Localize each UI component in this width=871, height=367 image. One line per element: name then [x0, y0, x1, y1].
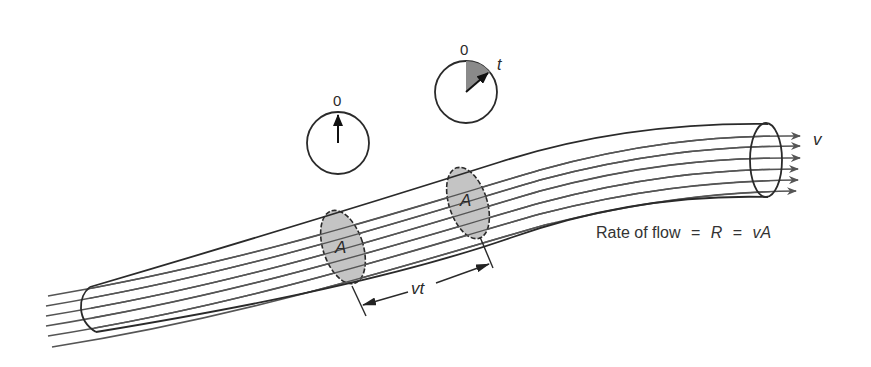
clock-end-time-label: t [497, 56, 502, 73]
flow-diagram: A A vt v 0 0 t Rate of flow = R = [0, 0, 871, 367]
velocity-label: v [813, 130, 823, 149]
equation-symbol-va: vA [753, 224, 772, 241]
clock-end-zero-label: 0 [460, 41, 468, 58]
area-label-left: A [334, 238, 346, 257]
equals-sign-2: = [733, 224, 742, 241]
flow-rate-equation: Rate of flow = R = vA [596, 224, 771, 242]
distance-label: vt [411, 279, 426, 298]
clock-start-icon [307, 112, 369, 174]
equation-symbol-r: R [711, 224, 723, 241]
area-label-right: A [459, 191, 471, 210]
diagram-canvas: A A vt v 0 0 t [0, 0, 871, 367]
clock-end-icon [435, 61, 497, 123]
equation-prefix: Rate of flow [596, 224, 680, 241]
equals-sign-1: = [691, 224, 700, 241]
clock-start-zero-label: 0 [333, 92, 341, 109]
